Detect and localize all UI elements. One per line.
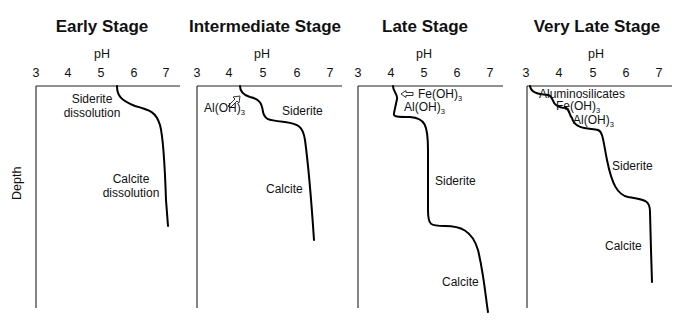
annotation-siderite: Siderite bbox=[612, 159, 653, 173]
subscript: 3 bbox=[610, 120, 614, 129]
annotation-aloh3: Al(OH)3 bbox=[573, 113, 614, 132]
panel-title: Very Late Stage bbox=[534, 17, 661, 37]
x-tick: 3 bbox=[523, 66, 530, 80]
x-axis-label: pH bbox=[588, 47, 604, 61]
x-tick: 6 bbox=[623, 66, 630, 80]
panel-very-late-stage: Very Late Stage pH 3 4 5 6 7 Aluminosili… bbox=[0, 0, 686, 327]
annotation-text: Fe(OH) bbox=[556, 99, 596, 113]
annotation-text: Al(OH) bbox=[573, 113, 610, 127]
annotation-calcite: Calcite bbox=[605, 239, 642, 253]
x-tick: 4 bbox=[556, 66, 563, 80]
x-tick: 7 bbox=[656, 66, 663, 80]
x-tick: 5 bbox=[590, 66, 597, 80]
